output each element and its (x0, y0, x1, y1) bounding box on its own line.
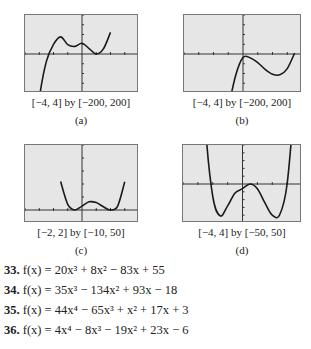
graph-b-window-caption: [−4, 4] by [−200, 200] (167, 96, 311, 108)
graph-a-window-caption: [−4, 4] by [−200, 200] (6, 96, 156, 108)
graph-c-screen (24, 144, 138, 222)
exercise-34: 34. f(x) = 35x³ − 134x² + 93x − 18 (4, 283, 177, 298)
graph-d-screen (182, 144, 301, 222)
exercise-36: 36. f(x) = 4x⁴ − 8x³ − 19x² + 23x − 6 (4, 323, 189, 338)
exercise-number: 33. (4, 263, 20, 277)
exercise-number: 35. (4, 303, 20, 317)
exercise-equation: f(x) = 4x⁴ − 8x³ − 19x² + 23x − 6 (23, 323, 189, 337)
graph-b-label: (b) (167, 114, 311, 126)
graph-a-screen (24, 14, 138, 92)
graph-c-window-caption: [−2, 2] by [−10, 50] (6, 226, 156, 238)
graph-d-window-caption: [−4, 4] by [−50, 50] (167, 226, 311, 238)
graph-c-label: (c) (6, 244, 156, 256)
graph-b-plot (184, 15, 301, 92)
exercise-number: 36. (4, 323, 20, 337)
function-curve (25, 32, 111, 92)
function-curve (228, 53, 294, 92)
graph-d-plot (183, 145, 301, 222)
exercise-equation: f(x) = 35x³ − 134x² + 93x − 18 (23, 283, 177, 297)
exercise-equation: f(x) = 44x⁴ − 65x³ + x² + 17x + 3 (23, 303, 189, 317)
function-curve (198, 145, 295, 218)
exercise-33: 33. f(x) = 20x³ + 8x² − 83x + 55 (4, 263, 165, 278)
function-curve (61, 182, 125, 210)
exercise-35: 35. f(x) = 44x⁴ − 65x³ + x² + 17x + 3 (4, 303, 189, 318)
graph-a-label: (a) (6, 114, 156, 126)
graph-d-label: (d) (167, 244, 311, 256)
exercise-equation: f(x) = 20x³ + 8x² − 83x + 55 (23, 263, 165, 277)
graph-c-plot (25, 145, 138, 222)
graph-b-screen (183, 14, 301, 92)
graph-a-plot (25, 15, 138, 92)
exercise-number: 34. (4, 283, 20, 297)
